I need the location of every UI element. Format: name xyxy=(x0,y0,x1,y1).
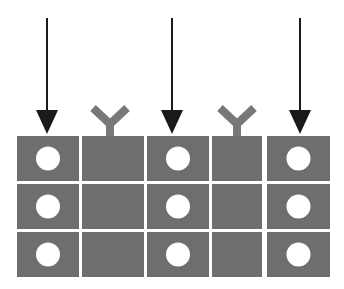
cell-r3c1-dot xyxy=(36,243,60,267)
column-3 xyxy=(147,136,209,277)
figure-canvas xyxy=(0,0,344,289)
column-2 xyxy=(82,136,144,277)
cell-r1c4 xyxy=(212,136,262,181)
cell-r1c5-dot xyxy=(287,147,311,171)
column-5 xyxy=(267,136,330,277)
cell-r3c4 xyxy=(212,232,262,277)
cell-r2c5-dot xyxy=(287,195,311,219)
arrow-shaft xyxy=(171,18,173,114)
cell-r1c2 xyxy=(82,136,144,181)
cell-r1c1-dot xyxy=(36,147,60,171)
cell-r2c1-dot xyxy=(36,195,60,219)
column-4 xyxy=(212,136,262,277)
arrow-shaft xyxy=(46,18,48,114)
cell-r3c3-dot xyxy=(166,243,190,267)
diagram-svg xyxy=(0,0,344,289)
cell-r2c2 xyxy=(82,184,144,229)
arrow-shaft xyxy=(299,18,301,114)
cell-r2c3-dot xyxy=(166,195,190,219)
column-1 xyxy=(17,136,79,277)
cell-r3c2 xyxy=(82,232,144,277)
cell-r3c5-dot xyxy=(287,243,311,267)
cell-r1c3-dot xyxy=(166,147,190,171)
cell-r2c4 xyxy=(212,184,262,229)
